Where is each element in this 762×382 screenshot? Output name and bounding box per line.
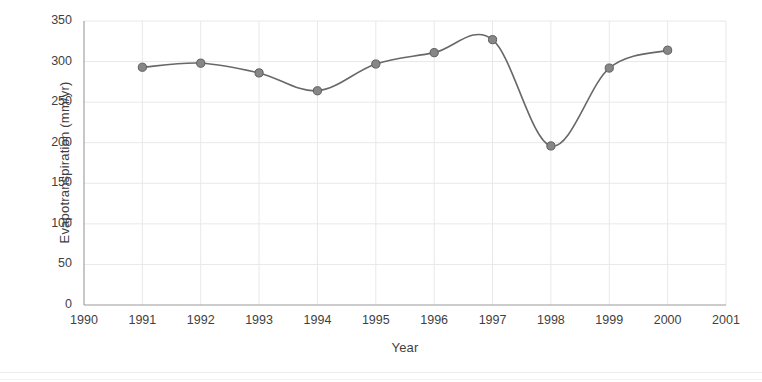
scan-artifact-line-lower (0, 379, 762, 380)
data-point-1997 (488, 36, 496, 44)
data-point-1995 (372, 60, 380, 68)
data-point-1994 (313, 87, 321, 95)
data-point-1998 (547, 142, 555, 150)
chart-figure: Evapotranspiration (mm/yr) Year 05010015… (0, 0, 762, 382)
data-point-1993 (255, 69, 263, 77)
data-point-1996 (430, 49, 438, 57)
data-point-2000 (664, 46, 672, 54)
data-line-evapotranspiration (142, 34, 667, 146)
data-point-1999 (605, 64, 613, 72)
scan-artifact-line (0, 372, 762, 373)
line-plot-canvas (0, 0, 762, 382)
data-point-1991 (138, 63, 146, 71)
data-point-1992 (197, 59, 205, 67)
